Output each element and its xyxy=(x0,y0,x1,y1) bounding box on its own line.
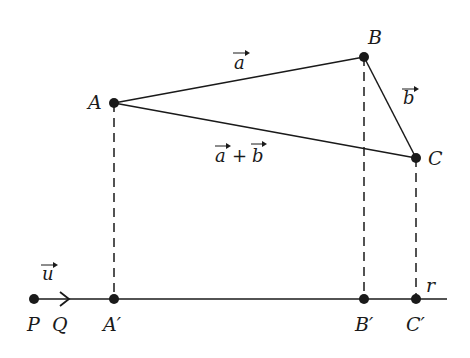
label-b: B xyxy=(367,26,382,48)
point-p xyxy=(29,294,39,304)
vector-label-sum-plus: + xyxy=(232,145,247,166)
point-b xyxy=(359,52,369,62)
vector-label-sum-a: a xyxy=(215,145,226,166)
diagram-canvas: A B C P Q A′ B′ C′ r a b a + b u xyxy=(0,0,470,358)
vector-label-b: b xyxy=(403,87,415,108)
diagram-svg: A B C P Q A′ B′ C′ r a b a + b u xyxy=(0,0,470,358)
label-p: P xyxy=(26,313,41,335)
label-c-prime: C′ xyxy=(406,313,426,335)
label-a: A xyxy=(86,91,102,113)
point-c xyxy=(411,153,421,163)
label-line-r: r xyxy=(426,274,437,296)
vector-label-a: a xyxy=(234,52,245,73)
label-c: C xyxy=(428,147,443,169)
point-c-prime xyxy=(411,294,421,304)
point-b-prime xyxy=(359,294,369,304)
label-a-prime: A′ xyxy=(101,313,122,335)
vector-label-u: u xyxy=(42,263,54,284)
label-b-prime: B′ xyxy=(354,313,374,335)
point-a-prime xyxy=(109,294,119,304)
point-a xyxy=(109,98,119,108)
segment-ac xyxy=(114,103,416,158)
label-q: Q xyxy=(52,313,68,335)
vector-label-sum-b: b xyxy=(252,145,264,166)
